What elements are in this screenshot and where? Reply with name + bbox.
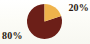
pie-slices <box>27 4 62 39</box>
pie-slice-label-80: 80% <box>2 31 23 41</box>
pie-chart-figure: 20% 80% <box>0 0 90 44</box>
pie-slice-label-20: 20% <box>68 3 89 13</box>
